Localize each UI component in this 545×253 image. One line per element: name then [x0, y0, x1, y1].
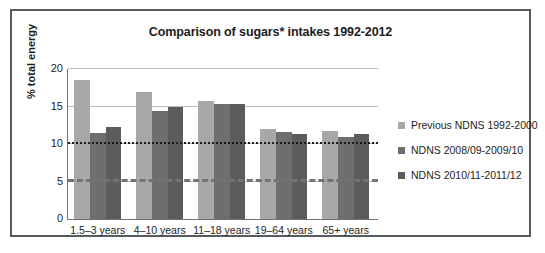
bar[interactable]: [322, 131, 338, 219]
legend-label: NDNS 2010/11-2011/12: [411, 169, 522, 181]
bar[interactable]: [74, 80, 90, 220]
bar-group: 11–18 years: [198, 69, 245, 219]
x-axis-tick-label: 11–18 years: [193, 224, 250, 236]
lower-reference: [68, 179, 378, 182]
x-axis-line: [67, 219, 378, 220]
bar[interactable]: [292, 134, 308, 220]
bar[interactable]: [214, 104, 230, 219]
y-axis-tick-label: 10: [51, 137, 63, 149]
legend-label: Previous NDNS 1992-2000: [411, 119, 538, 131]
plot-area: 05101520 1.5–3 years4–10 years11–18 year…: [68, 69, 378, 219]
chart-legend: Previous NDNS 1992-2000NDNS 2008/09-2009…: [398, 119, 538, 194]
bar-group: 4–10 years: [136, 69, 183, 219]
bar[interactable]: [106, 127, 122, 219]
upper-reference: [68, 142, 378, 144]
y-axis-title: % total energy: [25, 24, 37, 99]
bar-group: 1.5–3 years: [74, 69, 121, 219]
x-axis-tick-label: 19–64 years: [255, 224, 313, 236]
x-axis-tick-label: 1.5–3 years: [70, 224, 125, 236]
y-axis-tick-label: 15: [51, 100, 63, 112]
chart-title: Comparison of sugars* intakes 1992-2012: [12, 25, 529, 39]
y-axis-tick-label: 20: [51, 62, 63, 74]
bar-group: 65+ years: [322, 69, 369, 219]
y-axis-tick-label: 5: [57, 175, 63, 187]
bar[interactable]: [230, 104, 246, 219]
bar-group: 19–64 years: [260, 69, 307, 219]
bar[interactable]: [168, 107, 184, 220]
legend-item[interactable]: Previous NDNS 1992-2000: [398, 119, 538, 131]
bar[interactable]: [354, 134, 370, 220]
chart-frame: Comparison of sugars* intakes 1992-2012 …: [10, 9, 531, 237]
bar[interactable]: [136, 92, 152, 220]
legend-swatch-icon: [398, 172, 405, 179]
y-axis-tick-label: 0: [57, 212, 63, 224]
legend-label: NDNS 2008/09-2009/10: [411, 144, 523, 156]
bar[interactable]: [90, 133, 106, 219]
bar[interactable]: [198, 101, 214, 220]
legend-swatch-icon: [398, 122, 405, 129]
legend-swatch-icon: [398, 147, 405, 154]
bar[interactable]: [152, 111, 168, 219]
legend-item[interactable]: NDNS 2008/09-2009/10: [398, 144, 538, 156]
bar[interactable]: [276, 132, 292, 219]
x-axis-tick-label: 65+ years: [323, 224, 369, 236]
x-axis-tick-label: 4–10 years: [134, 224, 186, 236]
legend-item[interactable]: NDNS 2010/11-2011/12: [398, 169, 538, 181]
y-axis-line: [67, 69, 68, 219]
